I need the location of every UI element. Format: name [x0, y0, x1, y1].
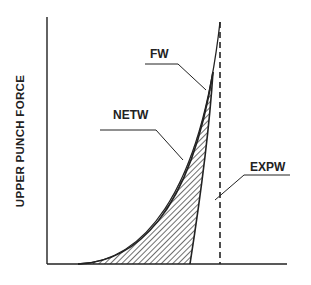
- y-axis-label: UPPER PUNCH FORCE: [14, 75, 26, 207]
- diagram-graphics: [0, 0, 311, 285]
- expw-leader-line: [215, 175, 290, 200]
- netw-label: NETW: [113, 108, 148, 122]
- expw-label: EXPW: [250, 160, 285, 174]
- netw-leader-line: [100, 130, 183, 160]
- punch-force-diagram: UPPER PUNCH FORCE FW NETW EXPW: [0, 0, 311, 285]
- fw-label: FW: [150, 47, 169, 61]
- fw-leader-line: [145, 64, 206, 90]
